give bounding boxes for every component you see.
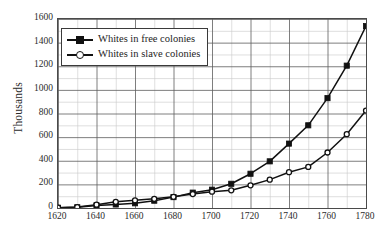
chart-figure: Thousands 02004006008001000120014001600 … — [0, 0, 389, 241]
legend-marker-open-circle-icon — [67, 49, 93, 61]
legend-label-slave-colonies: Whites in slave colonies — [98, 49, 200, 60]
x-tick-label: 1720 — [240, 212, 259, 222]
y-axis-title: Thousands — [8, 0, 28, 215]
y-tick-label: 1000 — [34, 84, 53, 94]
y-tick-label: 600 — [39, 131, 53, 141]
y-tick-label: 0 — [48, 202, 53, 212]
y-axis-tick-labels: 02004006008001000120014001600 — [0, 0, 57, 241]
chart-legend: Whites in free colonies Whites in slave … — [61, 28, 208, 66]
legend-label-free-colonies: Whites in free colonies — [98, 34, 195, 45]
x-tick-label: 1740 — [279, 212, 298, 222]
legend-item-slave-colonies: Whites in slave colonies — [67, 47, 200, 62]
y-axis-title-text: Thousands — [12, 82, 24, 134]
x-tick-label: 1760 — [317, 212, 336, 222]
x-tick-label: 1640 — [86, 212, 105, 222]
x-tick-label: 1660 — [125, 212, 144, 222]
y-tick-label: 800 — [39, 108, 53, 118]
y-tick-label: 200 — [39, 179, 53, 189]
y-tick-label: 1200 — [34, 61, 53, 71]
x-tick-label: 1780 — [356, 212, 375, 222]
x-tick-label: 1700 — [202, 212, 221, 222]
y-tick-label: 1600 — [34, 13, 53, 23]
x-tick-label: 1620 — [48, 212, 67, 222]
plot-area: Whites in free colonies Whites in slave … — [57, 18, 367, 209]
y-tick-label: 400 — [39, 155, 53, 165]
x-tick-label: 1680 — [163, 212, 182, 222]
legend-item-free-colonies: Whites in free colonies — [67, 32, 200, 47]
y-tick-label: 1400 — [34, 37, 53, 47]
legend-marker-filled-square-icon — [67, 34, 93, 46]
